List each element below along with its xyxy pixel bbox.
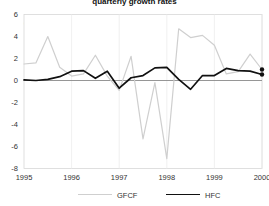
- series-end-marker-gfcf: [260, 67, 264, 71]
- legend-label-gfcf: GFCF: [117, 191, 137, 200]
- legend-swatch-hfc: [166, 194, 200, 195]
- legend-item-gfcf: GFCF: [78, 190, 137, 200]
- chart-legend: GFCF HFC: [0, 190, 269, 204]
- legend-swatch-gfcf: [78, 194, 112, 195]
- series-end-marker-hfc: [260, 72, 264, 76]
- plot-area: [0, 0, 269, 206]
- legend-label-hfc: HFC: [205, 191, 220, 200]
- plot-frame: [24, 15, 262, 169]
- legend-item-hfc: HFC: [166, 190, 220, 200]
- chart-container: quarterly growth rates (%) 6420-2-4-6-8 …: [0, 0, 269, 206]
